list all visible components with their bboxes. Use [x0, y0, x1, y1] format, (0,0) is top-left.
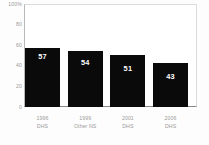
x-axis-label-1999: 1999 Other NS	[68, 115, 103, 130]
x-axis-label-2006-survey: DHS	[153, 123, 188, 131]
x-axis-label-2001: 2001 DHS	[110, 115, 145, 130]
bar-value-1999: 54	[68, 59, 103, 66]
bar-2001: 51	[110, 55, 145, 108]
y-axis-tick-0: 0	[0, 105, 22, 110]
x-axis-label-2001-year: 2001	[110, 115, 145, 123]
x-axis-label-1996: 1996 DHS	[25, 115, 60, 130]
y-axis-tick-80: 80	[0, 22, 22, 27]
bar-1999: 54	[68, 51, 103, 107]
bar-chart: 100% 80 60 40 20 0 57 54 51 43 1996 DHS …	[0, 0, 209, 145]
bar-value-1996: 57	[25, 53, 60, 60]
y-axis-tick-100: 100%	[0, 2, 22, 7]
x-axis-label-1996-survey: DHS	[25, 123, 60, 131]
x-axis-label-1999-year: 1999	[68, 115, 103, 123]
bar-value-2001: 51	[110, 65, 145, 72]
bar-2006: 43	[153, 63, 188, 107]
y-axis-tick-20: 20	[0, 84, 22, 89]
x-axis-label-1996-year: 1996	[25, 115, 60, 123]
x-axis-label-2006-year: 2006	[153, 115, 188, 123]
y-axis-tick-40: 40	[0, 63, 22, 68]
x-axis-label-1999-survey: Other NS	[68, 123, 103, 131]
x-axis-label-2006: 2006 DHS	[153, 115, 188, 130]
bar-value-2006: 43	[153, 73, 188, 80]
bar-1996: 57	[25, 48, 60, 107]
x-axis-label-2001-survey: DHS	[110, 123, 145, 131]
y-axis-tick-60: 60	[0, 43, 22, 48]
